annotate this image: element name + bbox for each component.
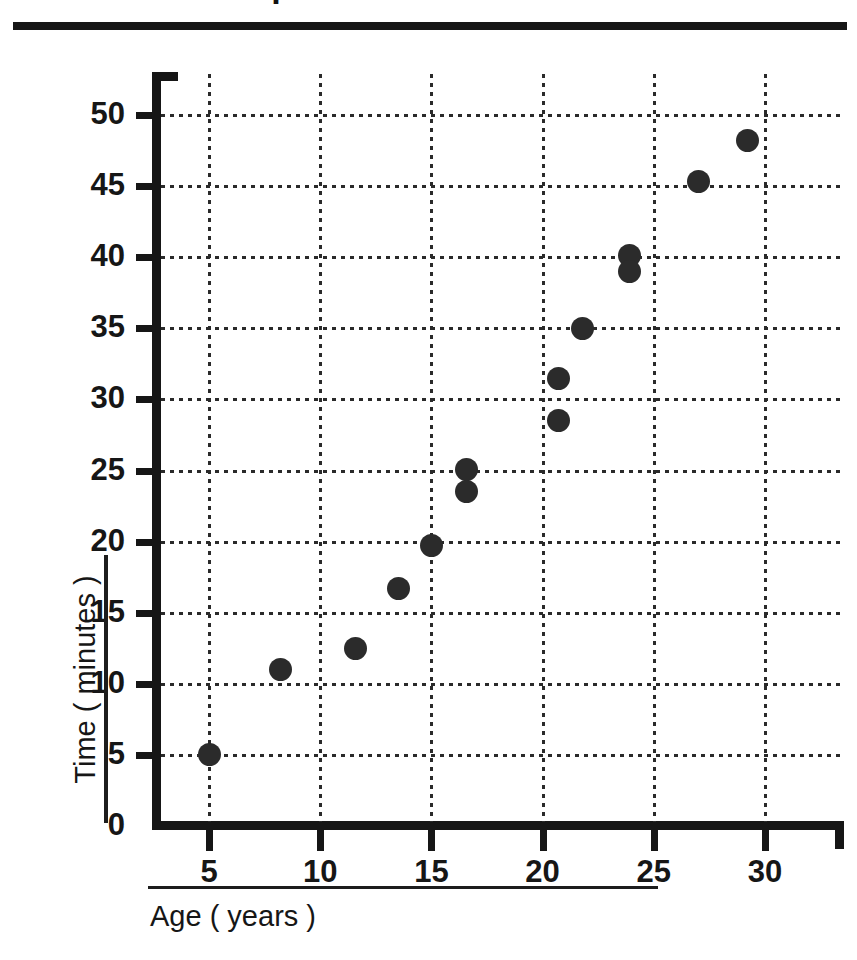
y-tick-label-text: 40 bbox=[65, 240, 125, 271]
x-tick-label-text: 15 bbox=[414, 854, 448, 889]
gridline-horizontal bbox=[161, 470, 845, 473]
x-tick-label-text: 30 bbox=[748, 854, 782, 889]
y-axis-title: Time ( minutes ) bbox=[69, 555, 102, 805]
x-axis-tick bbox=[540, 827, 547, 851]
x-tick-label: 10 bbox=[280, 856, 360, 887]
y-tick-label: 30 bbox=[65, 382, 125, 416]
gridline-horizontal bbox=[161, 114, 845, 117]
y-axis-tick bbox=[136, 468, 156, 475]
x-axis-tick bbox=[317, 827, 324, 851]
data-point bbox=[198, 743, 221, 766]
gridline-horizontal bbox=[161, 683, 845, 686]
data-point bbox=[547, 409, 570, 432]
data-point bbox=[344, 637, 367, 660]
y-tick-label-text: 25 bbox=[65, 454, 125, 485]
y-tick-label: 40 bbox=[65, 240, 125, 274]
y-axis-tick bbox=[136, 396, 156, 403]
x-axis-title: Age ( years ) bbox=[150, 900, 316, 933]
y-tick-label-text: 35 bbox=[65, 311, 125, 342]
x-axis-tick bbox=[428, 827, 435, 851]
data-point bbox=[736, 129, 759, 152]
x-tick-label: 5 bbox=[169, 856, 249, 887]
x-axis-tick bbox=[651, 827, 658, 851]
y-tick-label: 45 bbox=[65, 169, 125, 203]
x-axis-tick bbox=[762, 827, 769, 851]
data-point bbox=[571, 317, 594, 340]
y-tick-label: 50 bbox=[65, 98, 125, 132]
x-tick-label: 25 bbox=[614, 856, 694, 887]
data-point bbox=[269, 658, 292, 681]
x-axis-title-rule bbox=[148, 886, 658, 889]
y-axis-tick bbox=[136, 254, 156, 261]
y-tick-label-text: 20 bbox=[65, 525, 125, 556]
x-tick-label-text: 20 bbox=[525, 854, 559, 889]
x-tick-label-text: 5 bbox=[200, 854, 217, 889]
data-point bbox=[687, 170, 710, 193]
gridline-horizontal bbox=[161, 256, 845, 259]
x-axis-right-cap bbox=[835, 821, 844, 849]
x-axis-tick bbox=[206, 827, 213, 851]
y-tick-label: 25 bbox=[65, 454, 125, 488]
data-point bbox=[455, 458, 478, 481]
y-tick-label: 20 bbox=[65, 525, 125, 559]
scatter-plot: 05101520253035404550 51015202530 Time ( … bbox=[0, 0, 857, 960]
gridline-horizontal bbox=[161, 327, 845, 330]
gridline-horizontal bbox=[161, 754, 845, 757]
y-tick-label: 35 bbox=[65, 311, 125, 345]
y-axis-top-cap bbox=[152, 72, 178, 81]
gridline-horizontal bbox=[161, 398, 845, 401]
x-tick-label: 15 bbox=[391, 856, 471, 887]
x-tick-label-text: 10 bbox=[303, 854, 337, 889]
data-point bbox=[547, 367, 570, 390]
data-point bbox=[387, 577, 410, 600]
y-axis-tick bbox=[136, 112, 156, 119]
x-tick-label-text: 25 bbox=[637, 854, 671, 889]
gridline-horizontal bbox=[161, 185, 845, 188]
data-point bbox=[420, 534, 443, 557]
gridline-horizontal bbox=[161, 541, 845, 544]
y-axis-title-rule bbox=[104, 555, 108, 823]
y-tick-label-text: 30 bbox=[65, 382, 125, 413]
y-axis-tick bbox=[136, 539, 156, 546]
y-axis-tick bbox=[136, 183, 156, 190]
gridline-horizontal bbox=[161, 612, 845, 615]
x-tick-label: 30 bbox=[725, 856, 805, 887]
y-axis-title-block: Time ( minutes ) bbox=[18, 555, 148, 825]
data-point bbox=[618, 260, 641, 283]
y-tick-label-text: 45 bbox=[65, 169, 125, 200]
x-tick-label: 20 bbox=[503, 856, 583, 887]
y-axis-tick bbox=[136, 325, 156, 332]
x-axis-line bbox=[152, 821, 844, 830]
data-point bbox=[455, 480, 478, 503]
y-tick-label-text: 50 bbox=[65, 98, 125, 129]
